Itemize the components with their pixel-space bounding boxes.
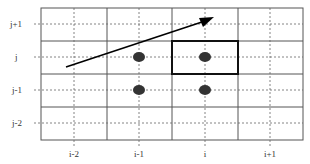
row-label: j-1 <box>11 85 22 95</box>
grid-dashed-lines <box>34 8 303 146</box>
column-label: i-2 <box>69 149 79 159</box>
row-labels: j+1 j j-1 j-2 <box>9 19 22 128</box>
point-i-1-j-1 <box>133 85 145 95</box>
point-i-j-1 <box>199 85 211 95</box>
column-label: i+1 <box>264 149 276 159</box>
row-label: j <box>14 52 18 62</box>
point-i-j <box>199 52 211 62</box>
stencil-grid-diagram: j+1 j j-1 j-2 i-2 i-1 i i+1 <box>0 0 310 164</box>
column-labels: i-2 i-1 i i+1 <box>69 149 276 159</box>
column-label: i-1 <box>134 149 144 159</box>
row-label: j-2 <box>11 118 22 128</box>
row-label: j+1 <box>9 19 22 29</box>
point-i-1-j <box>133 52 145 62</box>
column-label: i <box>204 149 207 159</box>
